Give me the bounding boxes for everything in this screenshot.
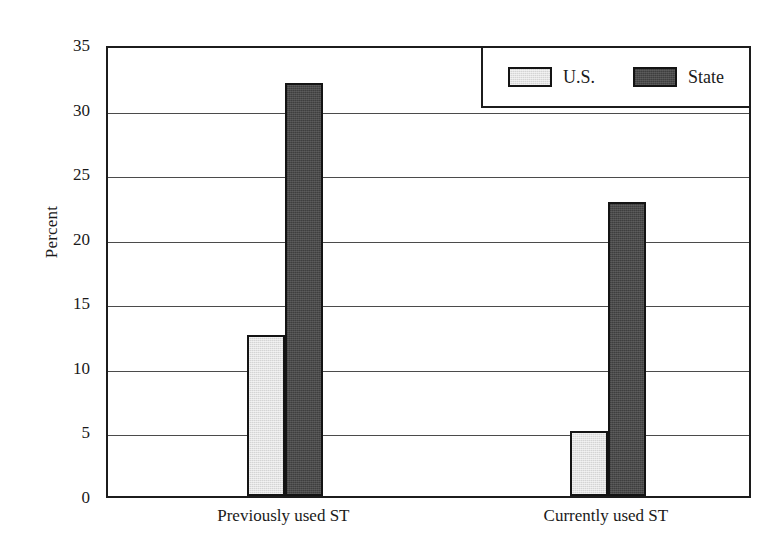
y-axis-tick-label: 15: [73, 295, 90, 312]
legend-swatch-us-icon: [508, 67, 552, 87]
legend-entry-us: U.S.: [508, 67, 595, 88]
y-axis-tick-label: 20: [73, 231, 90, 248]
y-axis-tick-label: 10: [73, 360, 90, 377]
y-axis-tick-label: 30: [73, 102, 90, 119]
legend-swatch-state-icon: [633, 67, 677, 87]
legend-entry-state: State: [633, 67, 724, 88]
x-axis-tick-label: Currently used ST: [544, 506, 669, 526]
bar-u-s-1: [247, 335, 285, 496]
x-axis-tick-label: Previously used ST: [217, 506, 349, 526]
legend-label-state: State: [688, 67, 724, 88]
bar-chart: Percent 05101520253035 Previously used S…: [0, 0, 781, 555]
y-axis-tick-label: 25: [73, 166, 90, 183]
x-axis-tick-labels: Previously used STCurrently used ST: [106, 506, 751, 542]
legend-label-us: U.S.: [563, 67, 595, 88]
plot-area: [106, 46, 751, 498]
bar-state-2: [608, 202, 646, 496]
y-axis-tick-label: 5: [82, 424, 91, 441]
y-axis-tick-label: 35: [73, 37, 90, 54]
bar-state-1: [285, 83, 323, 496]
bars-layer: [108, 48, 749, 496]
y-axis-tick-label: 0: [82, 489, 91, 506]
bar-u-s-2: [570, 431, 608, 496]
y-axis-tick-labels: 05101520253035: [0, 0, 106, 555]
chart-legend: U.S. State: [481, 46, 751, 108]
